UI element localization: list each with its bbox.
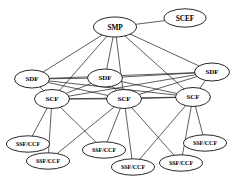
node-layer: SMPSCEFSDFSDFSDFSCFSCFSCFSSF/CCFSSF/CCFS… (7, 9, 230, 175)
edge-scf3-ssf6 (195, 106, 202, 134)
node-label-ssf2: SSF/CCF (36, 158, 60, 164)
node-label-ssf6: SSF/CCF (193, 140, 217, 146)
node-ssf6[interactable]: SSF/CCF (184, 135, 227, 151)
edge-sdf3-scf3 (200, 80, 206, 88)
edge-scf2-ssf5 (132, 108, 174, 156)
network-diagram: SMPSCEFSDFSDFSDFSCFSCFSCFSSF/CCFSSF/CCFS… (0, 0, 245, 185)
node-label-ssf5: SSF/CCF (169, 160, 193, 166)
edge-scf2-ssf4 (125, 108, 132, 158)
node-sdf2[interactable]: SDF (88, 69, 123, 87)
node-label-scef: SCEF (176, 14, 195, 23)
node-ssf1[interactable]: SSF/CCF (7, 136, 50, 152)
node-scf3[interactable]: SCF (176, 88, 211, 107)
edge-scf3-ssf4 (140, 106, 186, 160)
node-scf2[interactable]: SCF (107, 90, 142, 109)
node-scf1[interactable]: SCF (35, 90, 70, 109)
edge-sdf1-scf1 (40, 87, 44, 91)
node-smp[interactable]: SMP (94, 17, 137, 37)
node-scef[interactable]: SCEF (164, 9, 206, 27)
edge-scf1-ssf1 (32, 108, 47, 136)
node-label-ssf3: SSF/CCF (92, 147, 116, 153)
node-label-scf3: SCF (187, 93, 200, 101)
node-ssf4[interactable]: SSF/CCF (112, 159, 155, 175)
edge-sdf2-scf1 (66, 83, 91, 93)
diagram-canvas: SMPSCEFSDFSDFSDFSCFSCFSCFSSF/CCFSSF/CCFS… (0, 0, 245, 185)
node-label-ssf1: SSF/CCF (16, 141, 40, 147)
node-sdf1[interactable]: SDF (15, 70, 50, 88)
node-ssf5[interactable]: SSF/CCF (160, 155, 203, 171)
edge-scf2-ssf3 (107, 108, 120, 142)
edge-smp-sdf1 (43, 35, 102, 72)
node-ssf2[interactable]: SSF/CCF (27, 153, 70, 169)
node-label-scf1: SCF (46, 95, 59, 103)
edge-smp-sdf2 (107, 37, 113, 69)
node-label-scf2: SCF (118, 95, 131, 103)
edge-smp-scf3 (125, 36, 184, 89)
edge-smp-scef (136, 21, 165, 25)
node-label-sdf1: SDF (26, 75, 39, 83)
node-label-sdf3: SDF (206, 68, 219, 76)
node-sdf3[interactable]: SDF (195, 63, 230, 81)
node-label-ssf4: SSF/CCF (121, 164, 145, 170)
node-label-sdf2: SDF (99, 74, 112, 82)
node-ssf3[interactable]: SSF/CCF (83, 142, 126, 158)
edge-scf1-ssf3 (60, 107, 96, 142)
node-label-smp: SMP (107, 23, 123, 32)
